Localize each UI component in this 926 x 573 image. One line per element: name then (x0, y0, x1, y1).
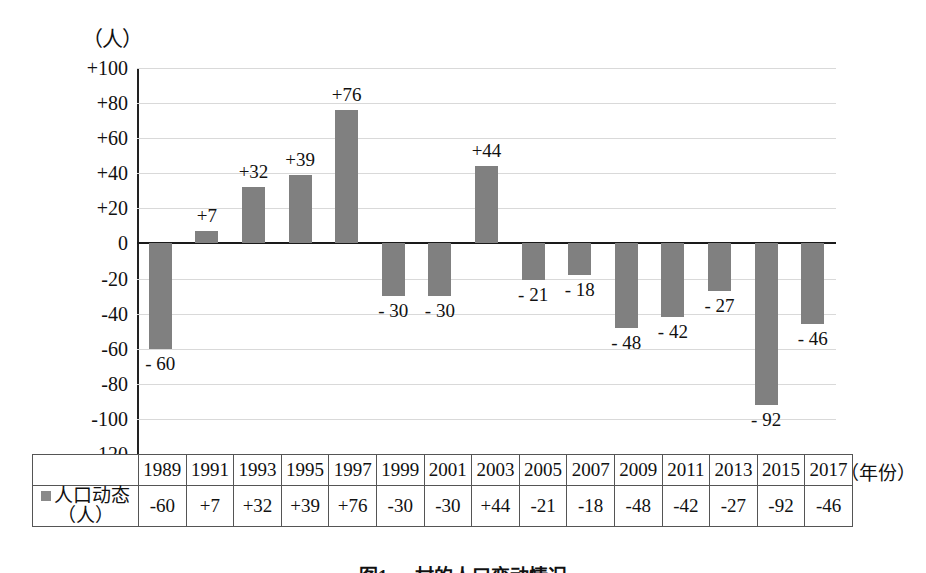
bar-value-label: - 27 (704, 295, 734, 317)
chart-plot-area: +100+80+60+40+200-20-40-60-80-100-120 - … (137, 60, 836, 454)
data-table-wrapper: 1989199119931995199719992001200320052007… (32, 454, 836, 527)
bar (475, 166, 498, 243)
bar (289, 175, 312, 243)
bar (801, 243, 824, 324)
gridline (137, 138, 836, 139)
table-value-cell: -48 (614, 486, 662, 527)
legend-label-line1: 人口动态 (54, 485, 130, 506)
bar (242, 187, 265, 243)
bar-value-label: - 48 (611, 332, 641, 354)
table-value-cell: +32 (234, 486, 282, 527)
table-value-cell: -92 (757, 486, 805, 527)
bar-value-label: - 92 (751, 409, 781, 431)
table-year-cell: 1995 (281, 455, 329, 486)
table-year-cell: 2009 (614, 455, 662, 486)
bar (382, 243, 405, 296)
y-axis-tick-label: +20 (38, 197, 128, 220)
bar-value-label: +7 (197, 205, 217, 227)
table-year-cell: 1993 (234, 455, 282, 486)
table-year-cell: 2011 (662, 455, 710, 486)
bar-value-label: - 30 (378, 300, 408, 322)
bar-value-label: - 21 (518, 284, 548, 306)
bar (335, 110, 358, 243)
table-value-cell: -46 (805, 486, 853, 527)
bar-value-label: - 60 (145, 353, 175, 375)
bar-value-label: - 18 (565, 279, 595, 301)
table-year-cell: 2015 (757, 455, 805, 486)
y-axis-tick-label: -40 (38, 302, 128, 325)
bar-value-label: - 46 (798, 328, 828, 350)
bar (755, 243, 778, 404)
bar (149, 243, 172, 348)
table-value-cell: -30 (424, 486, 472, 527)
y-axis-line (137, 68, 139, 454)
bar (615, 243, 638, 327)
table-year-cell: 1999 (376, 455, 424, 486)
bar (568, 243, 591, 275)
table-row-values: 人口动态 （人） -60+7+32+39+76-30-30+44-21-18-4… (33, 486, 853, 527)
legend-label-line2: （人） (33, 506, 138, 526)
year-axis-caption: （年份） (840, 458, 916, 485)
table-value-cell: +7 (186, 486, 234, 527)
legend-swatch-icon (41, 491, 51, 501)
table-year-cell: 2003 (472, 455, 520, 486)
bar-value-label: +39 (285, 149, 315, 171)
bar-value-label: +32 (239, 161, 269, 183)
gridline (137, 103, 836, 104)
table-value-cell: -18 (567, 486, 615, 527)
y-axis-tick-label: -20 (38, 267, 128, 290)
y-axis-tick-label: +60 (38, 127, 128, 150)
y-axis-tick-label: +40 (38, 162, 128, 185)
bar-value-label: +76 (332, 84, 362, 106)
gridline (137, 279, 836, 280)
gridline (137, 384, 836, 385)
y-axis-tick-label: -60 (38, 337, 128, 360)
legend-cell: 人口动态 （人） (33, 486, 139, 527)
bar-value-label: - 42 (658, 321, 688, 343)
figure-container: （人） +100+80+60+40+200-20-40-60-80-100-12… (0, 0, 926, 573)
table-year-cell: 2001 (424, 455, 472, 486)
table-year-cell: 2013 (710, 455, 758, 486)
y-axis-tick-label: 0 (38, 232, 128, 255)
table-year-cell: 1991 (186, 455, 234, 486)
y-axis-unit-label: （人） (82, 22, 142, 52)
table-value-cell: -42 (662, 486, 710, 527)
y-axis-tick-label: +100 (38, 57, 128, 80)
table-year-cell: 1989 (139, 455, 187, 486)
bar (522, 243, 545, 280)
bar (708, 243, 731, 290)
table-year-cell: 2007 (567, 455, 615, 486)
table-value-cell: +39 (281, 486, 329, 527)
bar (661, 243, 684, 317)
table-year-cell: 1997 (329, 455, 377, 486)
gridline (137, 419, 836, 420)
y-axis-tick-label: +80 (38, 92, 128, 115)
table-value-cell: -60 (139, 486, 187, 527)
gridline (137, 68, 836, 69)
data-table: 1989199119931995199719992001200320052007… (32, 454, 853, 527)
y-axis-tick-label: -80 (38, 372, 128, 395)
bar (428, 243, 451, 296)
bar-value-label: +44 (472, 140, 502, 162)
table-value-cell: +44 (472, 486, 520, 527)
legend-spacer-cell (33, 455, 139, 486)
table-row-years: 1989199119931995199719992001200320052007… (33, 455, 853, 486)
bar (195, 231, 218, 243)
table-value-cell: -27 (710, 486, 758, 527)
table-year-cell: 2005 (519, 455, 567, 486)
figure-caption: 图1 ○○村的人口变动情况 (0, 561, 926, 573)
bar-value-label: - 30 (425, 300, 455, 322)
table-value-cell: -21 (519, 486, 567, 527)
gridline (137, 349, 836, 350)
table-value-cell: +76 (329, 486, 377, 527)
y-axis-tick-label: -100 (38, 407, 128, 430)
table-value-cell: -30 (376, 486, 424, 527)
